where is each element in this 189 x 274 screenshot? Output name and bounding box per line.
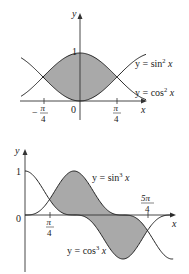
svg-text:4: 4 (41, 114, 46, 124)
figure-canvas: y x 1 0 − π 4 π 4 y x 1 0 π (0, 0, 189, 274)
label-text: y = cos (67, 245, 96, 256)
top-cos2-label-html: y = cos2 x (135, 86, 174, 98)
top-tick-one-label: 1 (72, 46, 77, 57)
label-text: y = sin (135, 58, 162, 69)
top-y-axis-arrow-icon (78, 13, 83, 19)
svg-text:4: 4 (114, 114, 119, 124)
bottom-tick-pi4-label: π 4 (46, 217, 54, 238)
bottom-x-axis-label: x (171, 218, 177, 229)
top-tick-neg-pi4-label: − π 4 (32, 103, 48, 124)
bottom-cos3-label-html: y = cos3 x (67, 244, 106, 256)
bottom-tick-one-label: 1 (16, 166, 21, 177)
label-exponent: 2 (164, 86, 167, 93)
bottom-y-axis-arrow-icon (23, 149, 28, 155)
svg-text:−: − (32, 107, 38, 118)
svg-text:π: π (41, 103, 46, 113)
top-chart: y x 1 0 − π 4 π 4 (20, 8, 147, 124)
top-x-axis-label: x (140, 104, 146, 115)
svg-text:5π: 5π (141, 193, 151, 203)
label-exponent: 3 (96, 244, 99, 251)
label-variable: x (125, 172, 129, 183)
top-origin-label: 0 (71, 104, 76, 115)
label-variable: x (170, 87, 174, 98)
label-exponent: 2 (162, 57, 165, 64)
bottom-sin3-label-html: y = sin3 x (92, 171, 130, 183)
bottom-origin-label: 0 (16, 213, 21, 224)
svg-text:4: 4 (47, 228, 52, 238)
svg-text:π: π (114, 103, 119, 113)
bottom-y-axis-label: y (14, 145, 20, 156)
top-y-axis-label: y (71, 8, 77, 19)
top-sin2-label-html: y = sin2 x (135, 57, 173, 69)
svg-text:4: 4 (145, 204, 150, 214)
svg-text:π: π (47, 217, 52, 227)
top-tick-pi4-label: π 4 (113, 103, 121, 124)
label-exponent: 3 (119, 171, 122, 178)
label-variable: x (168, 58, 172, 69)
bottom-tick-5pi4-label: 5π 4 (141, 193, 154, 214)
label-text: y = cos (135, 87, 164, 98)
label-text: y = sin (92, 172, 119, 183)
label-variable: x (102, 245, 106, 256)
